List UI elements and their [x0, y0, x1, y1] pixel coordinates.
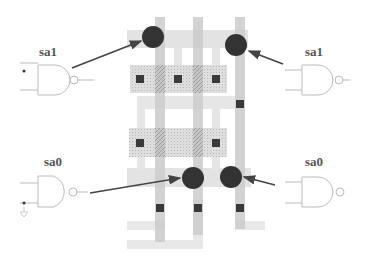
nand-gate-top-right — [285, 65, 350, 95]
contact — [136, 75, 144, 83]
input-node-dot — [23, 70, 26, 73]
fault-site-sa1-right — [225, 34, 247, 56]
gate-overlap-2 — [193, 65, 203, 93]
nand-gate-bottom-left — [20, 176, 88, 217]
ground-icon — [20, 207, 28, 217]
nand-gate-bottom-right — [285, 177, 344, 207]
arrow-sa1-right — [249, 51, 283, 64]
fault-site-sa0-right — [220, 166, 242, 188]
contact — [212, 139, 220, 147]
fault-site-sa0-left — [182, 167, 204, 189]
poly-column-2 — [193, 17, 203, 235]
connector-6 — [212, 155, 220, 170]
gate-overlap-1 — [155, 65, 165, 93]
label-sa1-right: sa1 — [305, 44, 323, 59]
nand-gate-top-left — [20, 63, 94, 95]
contact — [194, 204, 202, 212]
arrow-sa1-left — [72, 41, 141, 68]
contact — [156, 204, 164, 212]
gate-overlap-3 — [155, 128, 165, 157]
input-node-dot — [23, 202, 26, 205]
connector-5 — [137, 155, 145, 170]
contact — [136, 139, 144, 147]
contact — [236, 100, 244, 108]
label-sa1-left: sa1 — [39, 44, 57, 59]
fault-site-sa1-left — [142, 26, 164, 48]
label-sa0-left: sa0 — [44, 154, 62, 169]
contact — [174, 75, 182, 83]
label-sa0-right: sa0 — [305, 154, 323, 169]
contact — [236, 204, 244, 212]
gate-overlap-4 — [193, 128, 203, 157]
connector-4 — [212, 108, 220, 130]
mid-metal-bar — [137, 96, 244, 109]
connector-3 — [137, 108, 145, 130]
contact — [212, 75, 220, 83]
layout-diagram: sa1 sa1 sa0 sa0 — [0, 0, 367, 265]
